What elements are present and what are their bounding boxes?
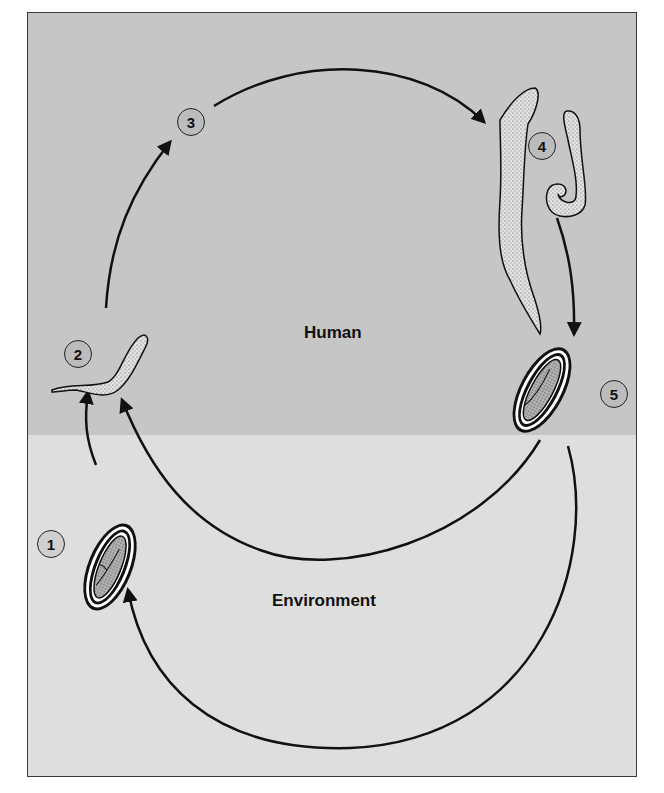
stage-5-badge: 5: [600, 380, 628, 408]
arrow-2-to-3: [106, 142, 170, 308]
arrow-4-to-5: [557, 218, 574, 334]
environment-zone-label: Environment: [272, 591, 376, 611]
stage-1-badge: 1: [37, 530, 65, 558]
stage-2-badge: 2: [64, 340, 92, 368]
life-cycle-artwork: [0, 0, 664, 793]
human-zone-label: Human: [304, 323, 362, 343]
stage-4-badge: 4: [528, 132, 556, 160]
stage-3-badge: 3: [177, 108, 205, 136]
arrow-3-to-4: [214, 69, 484, 122]
egg-1-illustration: [72, 516, 147, 618]
arrow-5-to-2: [122, 400, 540, 560]
egg-5-illustration: [501, 338, 584, 442]
arrow-1-to-2: [86, 392, 96, 465]
